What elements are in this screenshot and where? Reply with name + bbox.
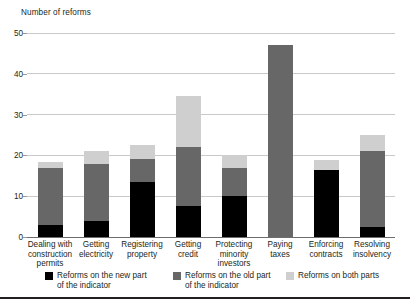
x-axis-label: Enforcing contracts — [303, 240, 349, 259]
bar-segment[interactable] — [38, 162, 63, 168]
bar-segment[interactable] — [176, 147, 201, 206]
bar-stack[interactable] — [314, 33, 339, 237]
bar-segment[interactable] — [84, 221, 109, 237]
plot-area: 01020304050 — [27, 33, 395, 237]
x-axis-label: Dealing with construction permits — [27, 240, 73, 269]
legend-item[interactable]: Reforms on the old part of the indicator — [173, 271, 271, 290]
legend-divider — [0, 297, 410, 299]
y-axis-tick-label: 50 — [14, 29, 23, 38]
x-axis-label: Paying taxes — [257, 240, 303, 259]
bar-segment[interactable] — [176, 96, 201, 147]
bar-segment[interactable] — [360, 151, 385, 226]
bar-segment[interactable] — [84, 164, 109, 221]
legend-item[interactable]: Reforms on the new part of the indicator — [45, 271, 147, 290]
chart-figure: Number of reforms 01020304050 Dealing wi… — [0, 0, 410, 303]
bar-segment[interactable] — [130, 159, 155, 181]
legend-color-swatch-icon — [286, 272, 294, 280]
y-axis-tick-label: 30 — [14, 110, 23, 119]
bar-stack[interactable] — [84, 33, 109, 237]
x-axis-label: Getting credit — [165, 240, 211, 259]
legend-label: Reforms on the new part of the indicator — [57, 271, 147, 290]
bar-segment[interactable] — [314, 160, 339, 170]
gridline — [27, 196, 395, 197]
bar-stack[interactable] — [360, 33, 385, 237]
gridline — [27, 155, 395, 156]
y-axis-tick-mark — [23, 155, 27, 156]
axis-baseline — [27, 237, 395, 238]
y-axis-tick-label: 0 — [18, 233, 23, 242]
bar-segment[interactable] — [222, 168, 247, 197]
y-axis-tick-mark — [23, 115, 27, 116]
bar-segment[interactable] — [222, 155, 247, 167]
bar-stack[interactable] — [176, 33, 201, 237]
y-axis-tick-mark — [23, 196, 27, 197]
legend-item[interactable]: Reforms on both parts — [286, 271, 379, 281]
chart-axis-title: Number of reforms — [21, 8, 91, 17]
gridline — [27, 114, 395, 115]
bar-segment[interactable] — [130, 182, 155, 237]
bar-segment[interactable] — [360, 135, 385, 151]
chart-legend: Reforms on the new part of the indicator… — [0, 271, 410, 297]
bar-segment[interactable] — [84, 151, 109, 163]
legend-color-swatch-icon — [173, 272, 181, 280]
x-axis-label: Getting electricity — [73, 240, 119, 259]
bar-segment[interactable] — [176, 206, 201, 237]
bar-segment[interactable] — [38, 168, 63, 225]
bar-stack[interactable] — [222, 33, 247, 237]
bar-segment[interactable] — [360, 227, 385, 237]
y-axis-tick-mark — [23, 33, 27, 34]
y-axis-tick-label: 40 — [14, 69, 23, 78]
y-axis-tick-label: 20 — [14, 151, 23, 160]
bar-segment[interactable] — [38, 225, 63, 237]
bar-stack[interactable] — [268, 33, 293, 237]
legend-color-swatch-icon — [45, 272, 53, 280]
bar-stack[interactable] — [38, 33, 63, 237]
x-axis-label: Resolving insolvency — [349, 240, 395, 259]
gridline — [27, 73, 395, 74]
x-axis-label: Protecting minority investors — [211, 240, 257, 269]
bar-segment[interactable] — [130, 145, 155, 159]
y-axis-tick-mark — [23, 237, 27, 238]
y-axis-tick-label: 10 — [14, 192, 23, 201]
bar-segment[interactable] — [222, 196, 247, 237]
gridline — [27, 33, 395, 34]
legend-label: Reforms on both parts — [298, 271, 379, 281]
bar-segment[interactable] — [268, 45, 293, 237]
legend-label: Reforms on the old part of the indicator — [185, 271, 271, 290]
bar-stack[interactable] — [130, 33, 155, 237]
y-axis-tick-mark — [23, 74, 27, 75]
x-axis-label: Registering property — [119, 240, 165, 259]
bar-segment[interactable] — [314, 170, 339, 237]
